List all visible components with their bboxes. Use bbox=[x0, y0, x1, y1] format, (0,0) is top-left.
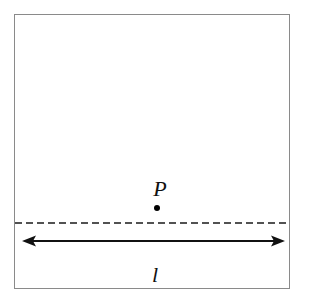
line-label-l: l bbox=[152, 262, 158, 287]
point-p-label: P bbox=[152, 176, 166, 201]
outer-rectangle bbox=[15, 15, 290, 289]
point-p-dot bbox=[154, 205, 160, 211]
figure-svg: P l bbox=[0, 0, 310, 307]
figure-canvas: P l bbox=[0, 0, 310, 307]
